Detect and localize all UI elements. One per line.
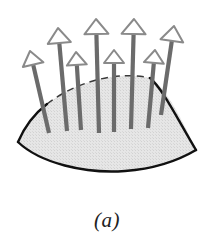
figure-container: (a) — [0, 0, 214, 248]
arrow-4-head-icon — [84, 19, 108, 34]
arrow-5-head-icon — [104, 50, 124, 63]
arrow-1-head-icon — [23, 51, 44, 67]
arrow-7-head-icon — [144, 50, 164, 64]
arrow-3-head-icon — [67, 52, 87, 66]
arrow-8-head-icon — [161, 26, 184, 43]
figure-caption: (a) — [0, 210, 214, 231]
arrow-6-shaft — [131, 34, 134, 129]
arrow-4-shaft — [96, 34, 99, 133]
arrow-2-head-icon — [48, 28, 71, 44]
arrow-6-head-icon — [122, 19, 146, 34]
